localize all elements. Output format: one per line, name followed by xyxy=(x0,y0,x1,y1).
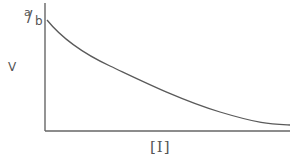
y-axis-label: V xyxy=(8,60,16,74)
y-intercept-denominator: b xyxy=(35,14,43,28)
plot-canvas xyxy=(0,0,297,168)
x-axis-label: [I] xyxy=(150,138,171,156)
fraction-slash: / xyxy=(27,7,32,26)
decay-curve xyxy=(47,20,290,125)
